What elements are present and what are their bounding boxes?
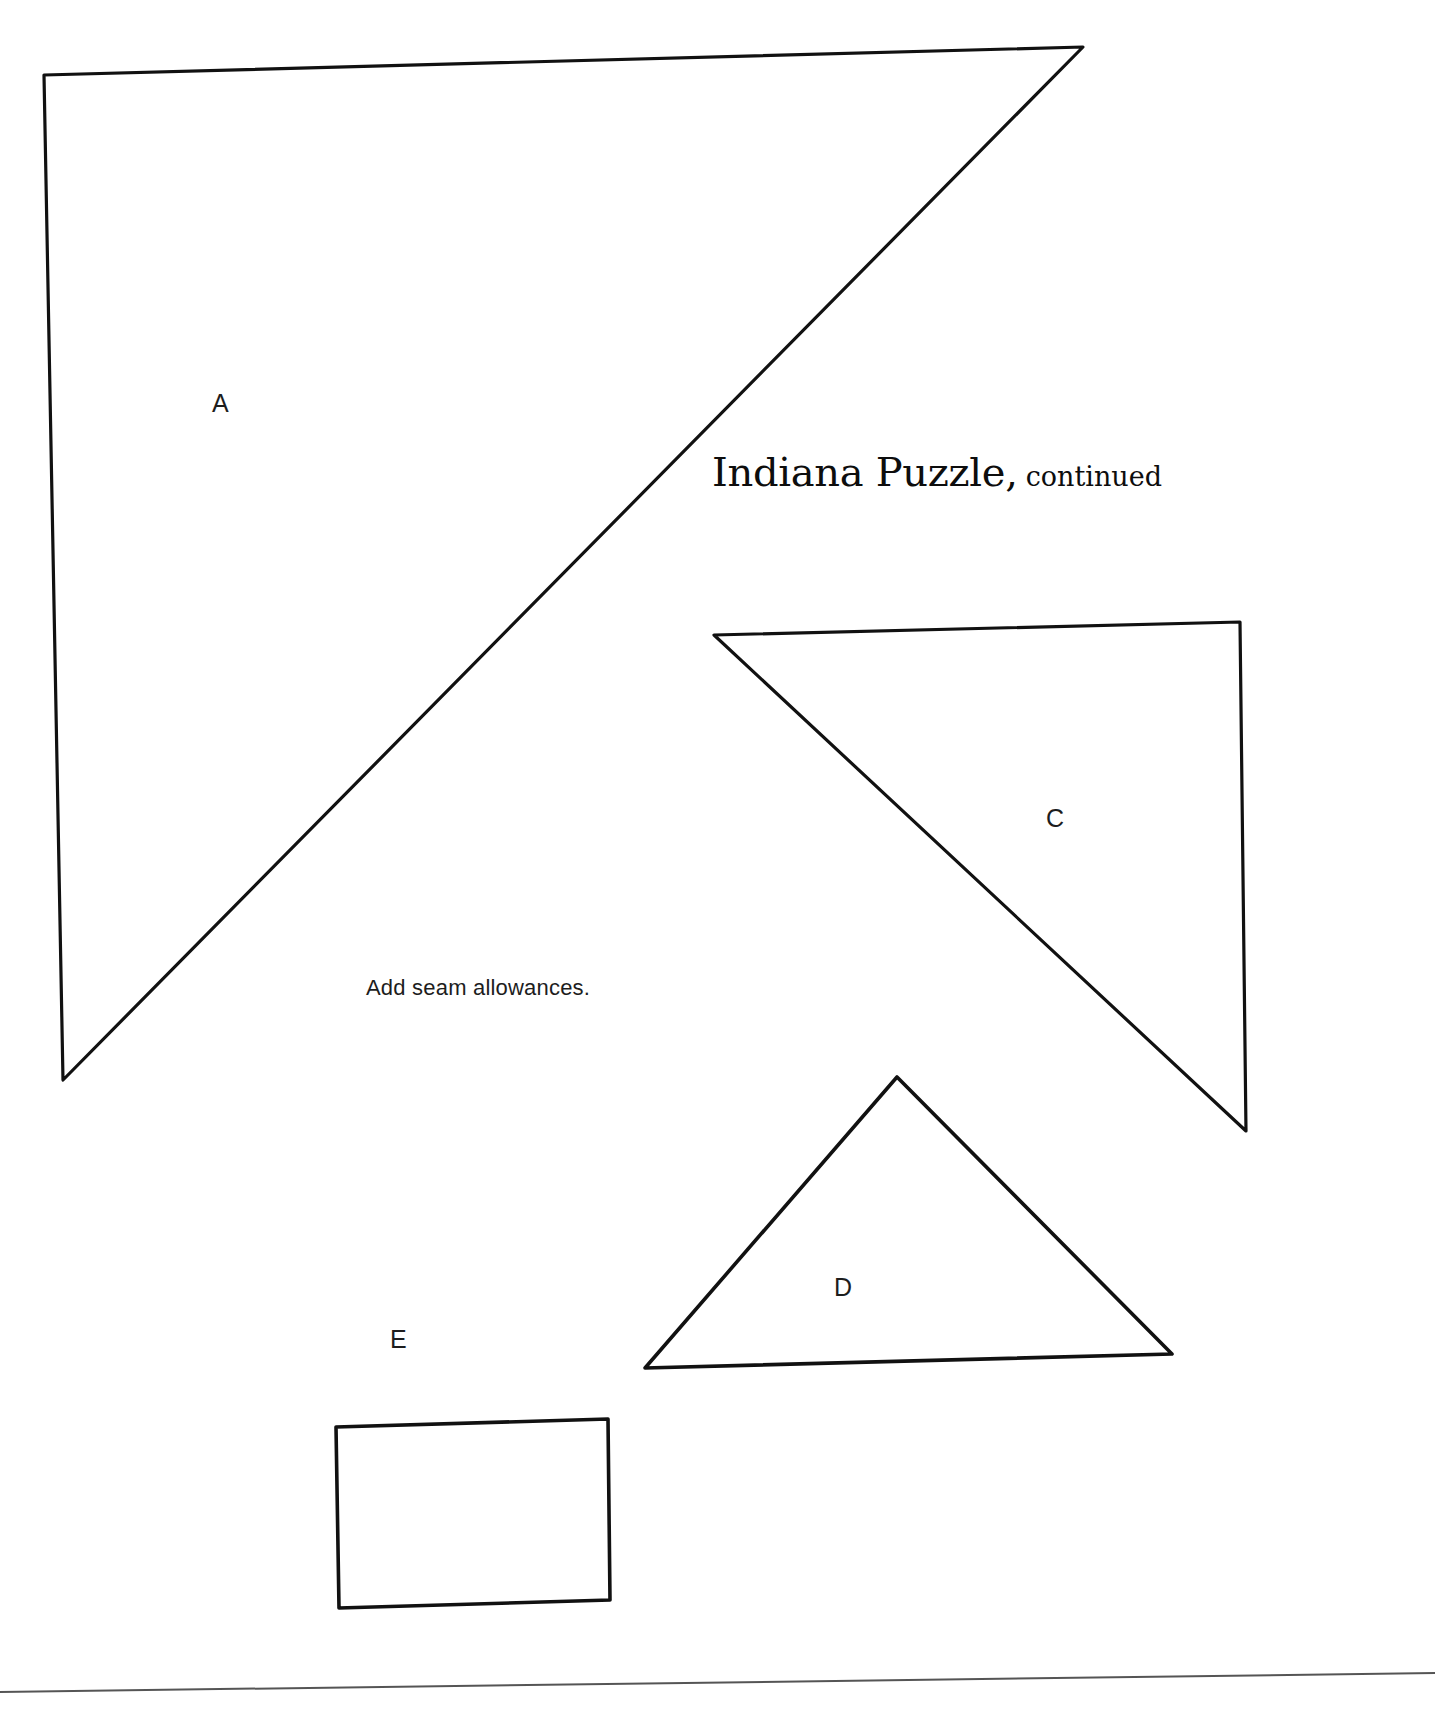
- pattern-page: Indiana Puzzle,continued Add seam allowa…: [0, 0, 1435, 1725]
- piece-label-e: E: [390, 1327, 407, 1352]
- pattern-drawing: [0, 0, 1435, 1725]
- piece-shape-D: [645, 1077, 1172, 1368]
- seam-allowance-note: Add seam allowances.: [366, 975, 590, 1001]
- piece-shape-E: [336, 1419, 610, 1608]
- page-title-main: Indiana Puzzle,: [712, 449, 1018, 495]
- piece-label-a: A: [212, 391, 229, 416]
- piece-shape-C: [714, 622, 1246, 1131]
- page-title: Indiana Puzzle,continued: [712, 452, 1162, 492]
- piece-label-c: C: [1046, 806, 1065, 831]
- page-title-continued: continued: [1026, 461, 1162, 492]
- piece-label-d: D: [834, 1275, 853, 1300]
- piece-shape-A: [44, 47, 1083, 1080]
- footer-rule: [0, 1673, 1435, 1692]
